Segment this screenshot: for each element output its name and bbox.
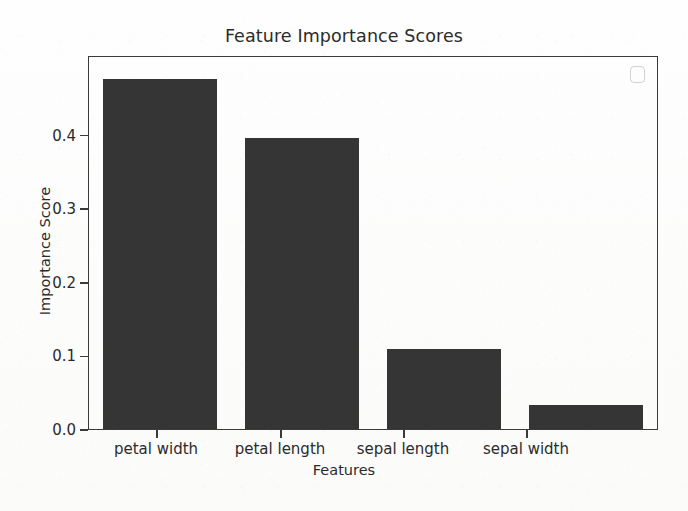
x-tick-mark-3 (526, 430, 528, 438)
y-tick-mark-0 (80, 429, 88, 431)
x-tick-mark-0 (156, 430, 158, 438)
y-tick-mark-2 (80, 282, 88, 284)
legend-box-artifact-icon (630, 66, 645, 83)
y-axis-title: Importance Score (37, 151, 53, 351)
plot-inner (89, 57, 657, 429)
y-tick-mark-1 (80, 356, 88, 358)
x-tick-mark-2 (403, 430, 405, 438)
chart-figure: Feature Importance Scores 0.0 0.1 0.2 0.… (0, 0, 688, 511)
chart-title: Feature Importance Scores (0, 26, 688, 46)
y-tick-mark-3 (80, 208, 88, 210)
plot-area (88, 56, 658, 430)
bar-petal-width (103, 79, 217, 429)
bar-sepal-width (529, 405, 643, 429)
x-axis-title: Features (0, 462, 688, 478)
y-tick-mark-4 (80, 135, 88, 137)
bar-petal-length (245, 138, 359, 429)
x-tick-mark-1 (280, 430, 282, 438)
bar-sepal-length (387, 349, 501, 429)
y-tick-label-4: 0.4 (16, 127, 76, 145)
y-tick-label-0: 0.0 (16, 421, 76, 439)
x-tick-label-sepal-width: sepal width (441, 440, 611, 458)
